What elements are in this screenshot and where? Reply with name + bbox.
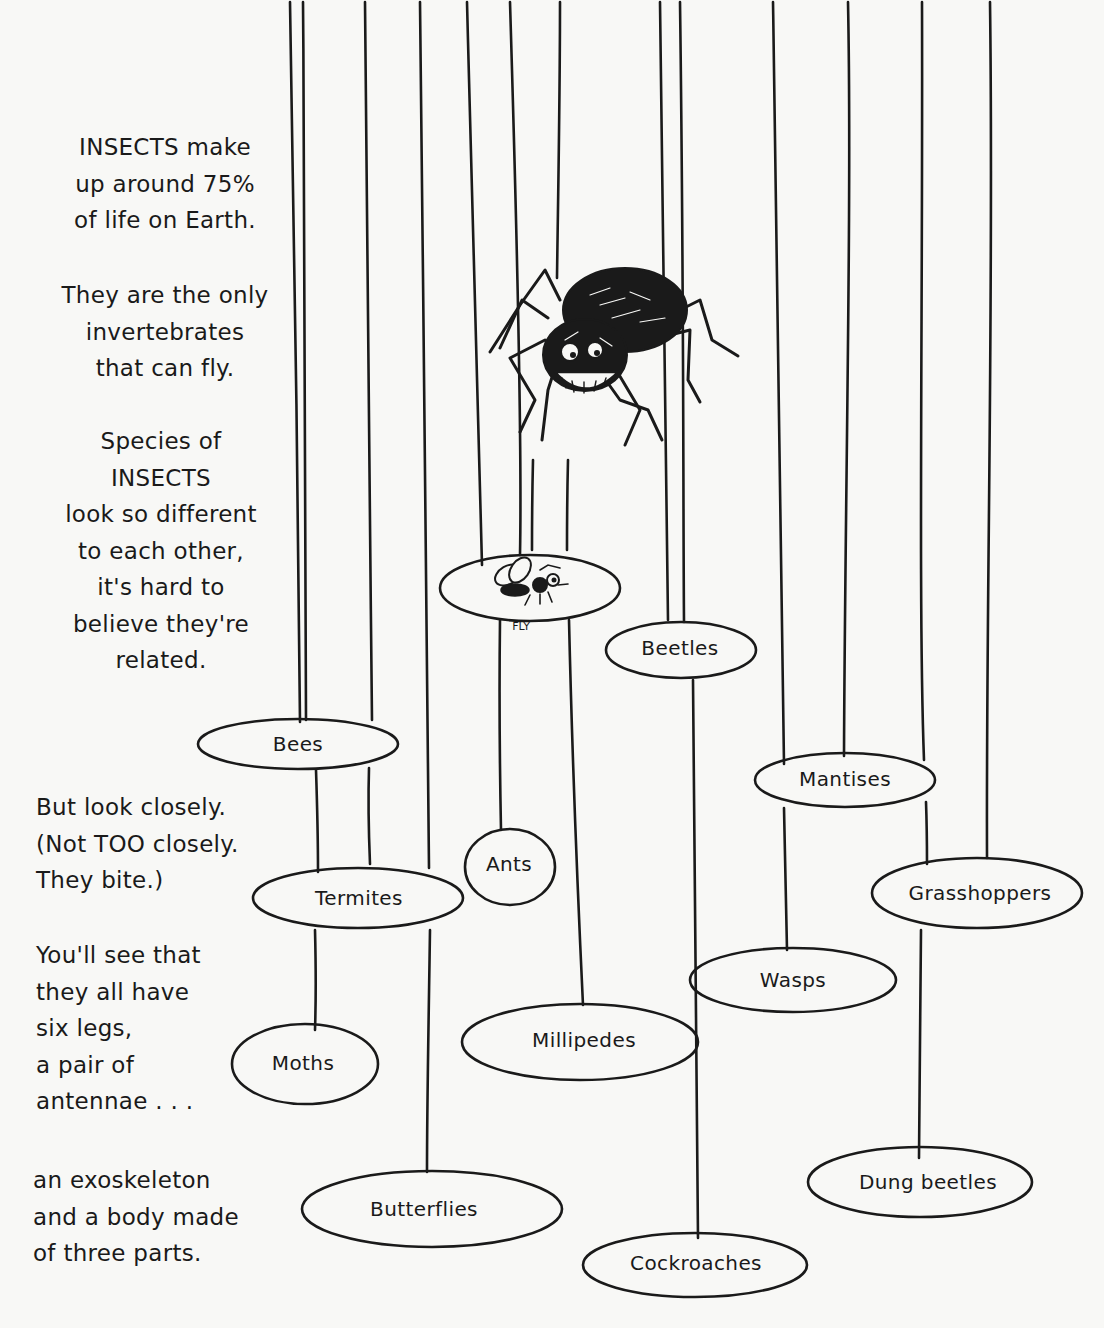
thread-butterflies: [420, 2, 430, 1172]
fact-only-flying-invertebrates: They are the only invertebrates that can…: [38, 277, 292, 387]
label-moths: Moths: [272, 1051, 334, 1075]
fact-look-closely: But look closely. (Not TOO closely. They…: [36, 789, 296, 899]
label-grasshoppers: Grasshoppers: [909, 881, 1052, 905]
label-butterflies: Butterflies: [370, 1197, 478, 1221]
label-dung-beetles: Dung beetles: [859, 1170, 997, 1194]
thread-mantises: [773, 2, 784, 764]
fact-six-legs-antennae: You'll see that they all have six legs, …: [36, 937, 296, 1120]
label-millipedes: Millipedes: [532, 1028, 636, 1052]
label-termites: Termites: [315, 886, 403, 910]
label-bees: Bees: [273, 732, 323, 756]
label-ants: Ants: [486, 852, 532, 876]
insects-web-page: INSECTS make up around 75% of life on Ea…: [0, 0, 1104, 1328]
thread-millipedes: [510, 2, 520, 555]
label-beetles: Beetles: [641, 636, 718, 660]
thread-termites-a: [365, 2, 372, 720]
fly-illustration: [491, 553, 568, 605]
thread-ants: [467, 2, 501, 830]
spider-illustration: [490, 268, 738, 445]
label-cockroaches: Cockroaches: [630, 1251, 762, 1275]
fact-species-differences: Species of INSECTS look so different to …: [34, 423, 288, 679]
thread-bees-2: [303, 2, 306, 720]
thread-moths: [315, 930, 316, 1030]
fly-caption: FLY: [512, 620, 530, 633]
fact-exoskeleton-body: an exoskeleton and a body made of three …: [33, 1162, 293, 1272]
label-mantises: Mantises: [799, 767, 891, 791]
label-wasps: Wasps: [760, 968, 826, 992]
fact-insects-percentage: INSECTS make up around 75% of life on Ea…: [40, 129, 290, 239]
